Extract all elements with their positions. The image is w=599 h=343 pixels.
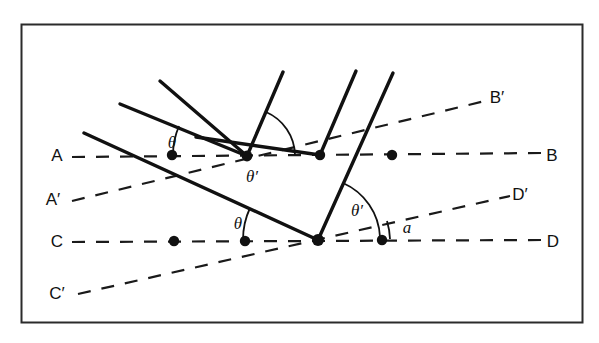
label-A: A [51, 146, 63, 165]
label-B-prime: B′ [490, 88, 505, 107]
label-theta-prime-lower: θ′ [351, 201, 363, 220]
label-theta-upper: θ [168, 133, 176, 152]
optics-reflection-figure: A A′ B B′ C C′ D D′ θ θ′ θ θ′ a [0, 0, 599, 343]
label-C-prime: C′ [49, 284, 64, 303]
point-on-CD-1 [169, 236, 179, 246]
label-alpha: a [403, 218, 412, 237]
point-on-CD-2 [240, 236, 250, 246]
label-B: B [546, 146, 557, 165]
point-on-AB-2 [387, 150, 397, 160]
vertex-upper [242, 151, 253, 162]
label-theta-prime-upper: θ′ [246, 167, 258, 186]
point-on-CD-3 [377, 235, 387, 245]
label-D-prime: D′ [512, 185, 527, 204]
figure-canvas: A A′ B B′ C C′ D D′ θ θ′ θ θ′ a [0, 0, 599, 343]
label-A-prime: A′ [46, 190, 61, 209]
label-D: D [547, 232, 559, 251]
label-theta-lower: θ [234, 214, 242, 233]
vertex-mid [315, 150, 325, 160]
label-C: C [51, 232, 63, 251]
vertex-lower [312, 234, 324, 246]
